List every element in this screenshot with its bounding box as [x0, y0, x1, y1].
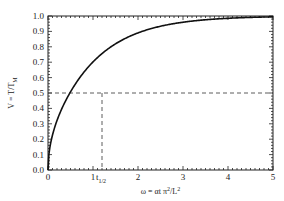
y-tick-label: 0.9 [33, 26, 45, 36]
y-tick-label: 0.6 [33, 73, 45, 83]
y-tick-label: 0.1 [33, 150, 44, 160]
y-tick-label: 0.8 [33, 42, 45, 52]
x-tick-label: 0 [46, 172, 51, 182]
y-tick-label: 0.5 [33, 88, 45, 98]
data-curve [48, 17, 273, 170]
y-tick-label: 1.0 [33, 11, 45, 21]
x-tick-label: 4 [226, 172, 231, 182]
t-half-label: t1/2 [96, 172, 106, 184]
y-tick-label: 0.0 [33, 165, 45, 175]
chart: 0123450.00.10.20.30.40.50.60.70.80.91.0t… [0, 0, 284, 201]
x-tick-label: 1 [91, 172, 96, 182]
y-tick-label: 0.3 [33, 119, 45, 129]
y-axis-label: V = T/TM [7, 77, 18, 109]
y-tick-label: 0.2 [33, 134, 44, 144]
x-tick-label: 3 [181, 172, 186, 182]
x-tick-label: 5 [271, 172, 276, 182]
x-axis-label: ω = αt π2/L2 [141, 186, 180, 196]
x-tick-label: 2 [136, 172, 141, 182]
y-tick-label: 0.4 [33, 103, 45, 113]
y-tick-label: 0.7 [33, 57, 45, 67]
